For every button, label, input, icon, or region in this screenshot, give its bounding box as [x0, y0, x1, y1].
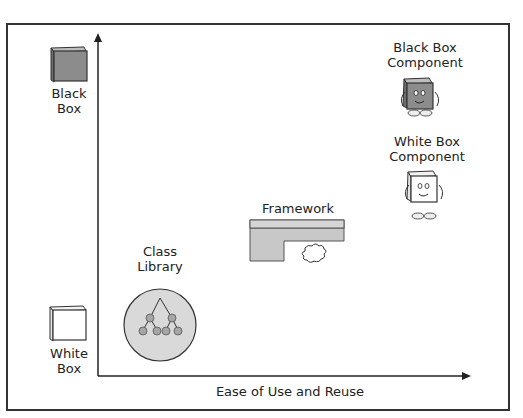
black-box-cube-icon — [51, 47, 87, 82]
framework-label: Framework — [248, 201, 348, 216]
black-box-component-label-line-1: Black Box — [380, 40, 470, 55]
white-box-component-label: White Box Component — [382, 134, 472, 164]
white-box-cube-icon — [50, 306, 86, 341]
white-box-label-line-2: Box — [44, 361, 94, 376]
class-library-label: Class Library — [125, 244, 195, 274]
white-box-label: White Box — [44, 346, 94, 376]
black-box-component-label-line-2: Component — [380, 55, 470, 70]
black-box-label: Black Box — [44, 86, 94, 116]
class-hierarchy-tree-icon — [124, 289, 196, 361]
black-box-component-label: Black Box Component — [380, 40, 470, 70]
white-box-component-label-line-2: Component — [382, 149, 472, 164]
black-box-label-line-2: Box — [44, 101, 94, 116]
black-box-character-icon — [401, 78, 438, 116]
framework-block-with-puzzle-piece-icon — [250, 220, 344, 262]
x-axis-label: Ease of Use and Reuse — [190, 384, 390, 399]
white-box-label-line-1: White — [44, 346, 94, 361]
white-box-character-icon — [405, 171, 442, 219]
y-axis — [94, 33, 102, 376]
class-library-label-line-1: Class — [125, 244, 195, 259]
class-library-label-line-2: Library — [125, 259, 195, 274]
framework-label-line-1: Framework — [248, 201, 348, 216]
black-box-label-line-1: Black — [44, 86, 94, 101]
white-box-component-label-line-1: White Box — [382, 134, 472, 149]
x-axis — [98, 372, 471, 380]
